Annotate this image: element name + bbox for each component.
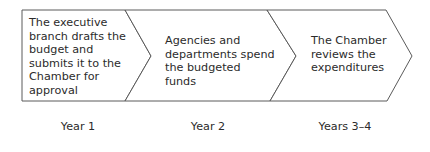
step-3-description: The Chamber reviews the expenditures [311, 34, 391, 75]
step-1-period-label: Year 1 [48, 120, 108, 133]
step-3-period-label: Years 3–4 [315, 120, 375, 133]
step-2-description: Agencies and departments spend the budge… [165, 34, 275, 88]
step-2-period-label: Year 2 [178, 120, 238, 133]
step-1-description: The executive branch drafts the budget a… [29, 16, 127, 97]
